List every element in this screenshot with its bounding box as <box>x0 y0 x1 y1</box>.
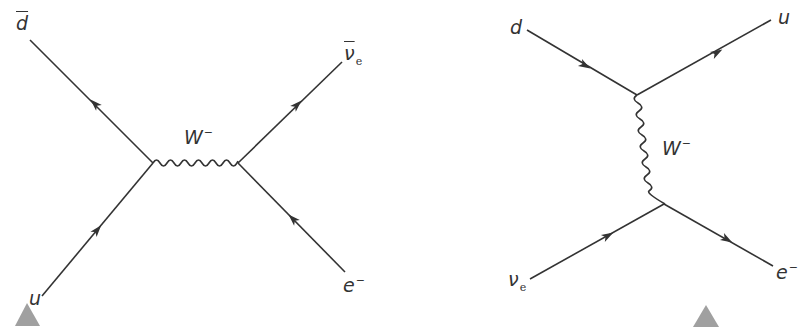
label-up: u <box>778 8 790 27</box>
label-text: ν <box>344 42 355 64</box>
label-down: d <box>510 18 522 37</box>
label-text: e <box>343 274 355 296</box>
label-superscript: − <box>789 261 798 274</box>
label-text: ν <box>508 268 519 290</box>
label-text: d <box>16 12 28 34</box>
label-text: u <box>778 6 790 28</box>
label-electron: e− <box>343 275 365 295</box>
diagram-t-channel <box>527 20 773 279</box>
triangle-marker-icon <box>693 305 719 327</box>
label-superscript: − <box>682 137 691 150</box>
electron-line <box>664 204 773 266</box>
label-subscript: e <box>520 281 527 294</box>
label-superscript: − <box>356 274 365 287</box>
arrow-icon <box>601 229 615 242</box>
w-boson-propagator <box>634 95 665 204</box>
label-superscript: − <box>204 126 213 139</box>
feynman-diagrams-canvas <box>0 0 798 332</box>
arrow-icon <box>720 233 734 246</box>
label-antineutrino: νe <box>344 44 362 67</box>
antineutrino-line <box>238 62 342 163</box>
label-w-boson: W− <box>184 127 213 147</box>
w-boson-propagator <box>153 160 238 166</box>
label-electron: e− <box>776 262 798 282</box>
down-line <box>527 30 637 95</box>
up-line <box>637 20 771 95</box>
neutrino-line <box>530 204 664 279</box>
label-up: u <box>29 289 41 308</box>
label-antidown: d <box>16 14 28 33</box>
label-text: d <box>510 16 522 38</box>
label-text: W <box>662 137 681 159</box>
label-text: e <box>776 261 788 283</box>
diagram-s-channel <box>30 40 345 296</box>
label-w-boson: W− <box>662 138 691 158</box>
diagram-s-channel-arrows <box>88 97 305 237</box>
label-text: u <box>29 287 41 309</box>
label-neutrino: νe <box>508 270 526 293</box>
diagram-t-channel-arrows <box>578 46 734 246</box>
label-subscript: e <box>356 55 363 68</box>
label-text: W <box>184 126 203 148</box>
